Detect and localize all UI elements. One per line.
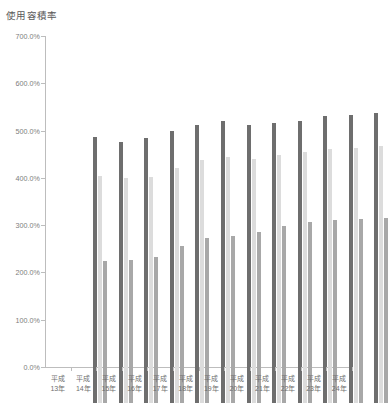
bar [379, 146, 383, 403]
y-axis-tick [41, 367, 45, 368]
bar [175, 168, 179, 403]
bar [247, 125, 251, 403]
x-axis-tick-label-line: 24年 [319, 384, 359, 394]
x-axis-tick [173, 367, 174, 371]
bar-group [93, 72, 108, 403]
bar [349, 115, 353, 403]
x-axis-tick-label-line: 平成 [319, 374, 359, 384]
bar-group [170, 72, 185, 403]
y-axis-tick [41, 36, 45, 37]
x-axis-tick [275, 367, 276, 371]
x-axis-tick-label: 平成24年 [319, 374, 359, 393]
y-axis-tick [41, 320, 45, 321]
y-axis-tick-label: 200.0% [0, 268, 40, 277]
y-axis-tick-label: 300.0% [0, 221, 40, 230]
bar-group [349, 72, 364, 403]
bar [149, 177, 153, 403]
plot-area [45, 36, 352, 367]
bar-group [119, 72, 134, 403]
x-axis-tick [301, 367, 302, 371]
x-axis-tick [250, 367, 251, 371]
bar [277, 155, 281, 403]
bar-group [272, 72, 287, 403]
x-axis-tick [96, 367, 97, 371]
y-axis-tick-label: 0.0% [0, 363, 40, 372]
y-axis-tick [41, 272, 45, 273]
bar-group [323, 72, 338, 403]
bar [354, 148, 358, 403]
x-axis-tick [326, 367, 327, 371]
bar-group [195, 72, 210, 403]
bar [226, 157, 230, 403]
y-axis-labels: 700.0%600.0%500.0%400.0%300.0%200.0%100.… [0, 0, 40, 404]
y-axis-tick-label: 700.0% [0, 32, 40, 41]
bar [170, 131, 174, 403]
bar [124, 178, 128, 403]
y-axis-tick [41, 83, 45, 84]
bar [328, 149, 332, 403]
x-axis-tick [224, 367, 225, 371]
bar [323, 116, 327, 403]
bar [119, 142, 123, 403]
bar-group [298, 72, 313, 403]
bar-group [144, 72, 159, 403]
y-axis-tick [41, 178, 45, 179]
bar [195, 125, 199, 404]
y-axis-tick-label: 400.0% [0, 174, 40, 183]
bar [252, 159, 256, 403]
bar [272, 123, 276, 403]
bar [200, 160, 204, 403]
y-axis-tick-label: 100.0% [0, 316, 40, 325]
bar [98, 176, 102, 403]
bar [359, 219, 363, 403]
bar-group [374, 72, 389, 403]
bar [384, 218, 388, 403]
y-axis-tick-label: 600.0% [0, 79, 40, 88]
bar [374, 113, 378, 403]
x-axis-tick [199, 367, 200, 371]
x-axis-tick [122, 367, 123, 371]
bar [93, 137, 97, 403]
x-axis-tick [147, 367, 148, 371]
y-axis-tick [41, 225, 45, 226]
x-axis-tick [352, 367, 353, 371]
bar-group [221, 72, 236, 403]
y-axis-tick-label: 500.0% [0, 127, 40, 136]
bar [303, 152, 307, 403]
bar [144, 138, 148, 403]
bar-group [247, 72, 262, 403]
bar [221, 121, 225, 403]
x-axis-tick [71, 367, 72, 371]
bar [298, 121, 302, 403]
y-axis-tick [41, 131, 45, 132]
